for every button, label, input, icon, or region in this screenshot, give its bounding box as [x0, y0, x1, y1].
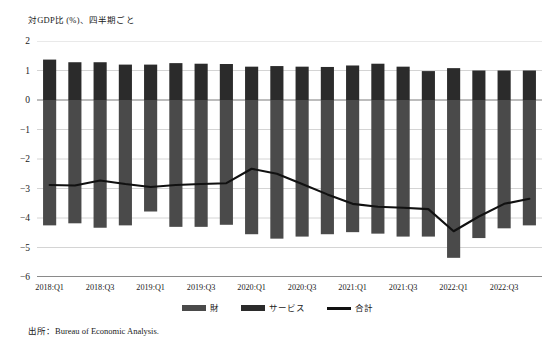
y-tick-label: −6 [2, 272, 30, 282]
bar-goods [447, 100, 460, 258]
bar-goods [144, 100, 157, 212]
y-tick-label: −1 [2, 125, 30, 135]
source-note: 出所：Bureau of Economic Analysis. [28, 326, 159, 336]
bar-goods [371, 100, 384, 234]
bar-services [397, 67, 410, 100]
legend-item-label: 合計 [355, 303, 373, 313]
bar-services [371, 64, 384, 100]
x-tick-label: 2019:Q3 [187, 283, 216, 293]
legend-bar-icon [182, 305, 206, 311]
bar-goods [523, 100, 536, 225]
bar-services [245, 67, 258, 100]
bar-goods [43, 100, 56, 225]
y-tick-label: 1 [2, 66, 30, 76]
plot-area [37, 41, 542, 277]
legend-item-label: サービス [269, 303, 305, 313]
bar-goods [195, 100, 208, 227]
bar-goods [422, 100, 435, 237]
bar-goods [68, 100, 81, 223]
chart-legend: 財サービス合計 [0, 303, 554, 313]
legend-item[interactable]: 財 [182, 303, 219, 313]
bar-services [346, 65, 359, 100]
bar-services [119, 65, 132, 100]
x-tick-label: 2022:Q1 [439, 283, 468, 293]
bar-services [94, 62, 107, 100]
bar-services [498, 71, 511, 101]
bar-services [270, 66, 283, 100]
x-tick-label: 2021:Q1 [338, 283, 367, 293]
bar-goods [498, 100, 511, 228]
bar-services [169, 63, 182, 100]
bar-goods [346, 100, 359, 232]
bar-goods [270, 100, 283, 239]
bar-services [195, 64, 208, 100]
chart-figure: 対GDP比 (%)、四半期ごと 210−1−2−3−4−5−6 2018:Q12… [0, 0, 554, 348]
bar-goods [321, 100, 334, 234]
y-tick-label: −4 [2, 213, 30, 223]
x-tick-label: 2021:Q3 [389, 283, 418, 293]
legend-line-icon [327, 307, 351, 310]
legend-bar-icon [241, 305, 265, 311]
bar-services [447, 68, 460, 100]
y-tick-label: 0 [2, 95, 30, 105]
bar-goods [94, 100, 107, 228]
y-tick-label: 2 [2, 36, 30, 46]
x-tick-label: 2020:Q1 [237, 283, 266, 293]
bar-goods [397, 100, 410, 237]
x-tick-label: 2020:Q3 [288, 283, 317, 293]
bar-goods [220, 100, 233, 225]
bar-goods [169, 100, 182, 227]
bar-goods [245, 100, 258, 234]
bar-services [472, 71, 485, 101]
bar-services [321, 67, 334, 100]
legend-item[interactable]: 合計 [327, 303, 373, 313]
bar-services [296, 67, 309, 100]
legend-item[interactable]: サービス [241, 303, 305, 313]
legend-item-label: 財 [210, 303, 219, 313]
bar-services [422, 71, 435, 100]
bar-services [68, 62, 81, 100]
y-tick-label: −5 [2, 243, 30, 253]
y-tick-label: −2 [2, 154, 30, 164]
chart-canvas [37, 41, 542, 277]
bar-services [220, 64, 233, 100]
x-tick-label: 2018:Q3 [86, 283, 115, 293]
x-tick-label: 2022:Q3 [490, 283, 519, 293]
bar-goods [296, 100, 309, 237]
x-tick-label: 2018:Q1 [35, 283, 64, 293]
bar-services [43, 60, 56, 100]
x-tick-label: 2019:Q1 [136, 283, 165, 293]
chart-axis-title: 対GDP比 (%)、四半期ごと [28, 13, 135, 25]
bar-services [144, 65, 157, 100]
bar-goods [119, 100, 132, 225]
bar-services [523, 71, 536, 101]
y-tick-label: −3 [2, 184, 30, 194]
